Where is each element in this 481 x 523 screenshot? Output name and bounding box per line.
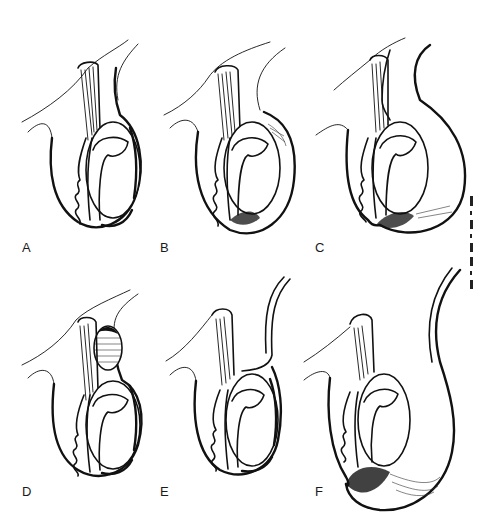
panel-d (18, 280, 148, 485)
panel-f-drawing (300, 262, 465, 523)
panel-label-a: A (22, 240, 31, 255)
panel-b (160, 20, 300, 235)
panel-label-e: E (160, 484, 169, 499)
panel-label-b: B (160, 240, 169, 255)
panel-label-c: C (315, 240, 324, 255)
panel-e-drawing (160, 275, 300, 485)
panel-d-drawing (18, 280, 148, 485)
panel-c-drawing (310, 20, 470, 235)
panel-e (160, 275, 300, 485)
panel-label-f: F (315, 484, 323, 499)
panel-a (18, 20, 148, 235)
panel-label-d: D (22, 484, 31, 499)
panel-f (300, 262, 465, 523)
panel-b-drawing (160, 20, 300, 235)
clipped-caption-fragment (470, 196, 481, 291)
panel-c (310, 20, 470, 235)
panel-a-drawing (18, 20, 148, 235)
